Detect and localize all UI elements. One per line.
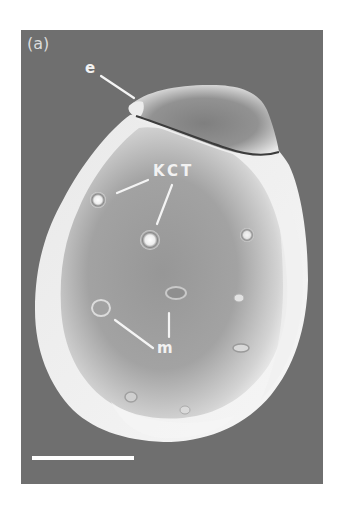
scale-bar: [32, 456, 134, 460]
pore: [233, 344, 249, 352]
pore: [240, 228, 254, 242]
pore-kct-2: [140, 230, 160, 250]
pore-m-2: [166, 287, 186, 299]
panel-label: (a): [27, 36, 49, 52]
label-m: m: [157, 341, 173, 356]
pore-m-1: [92, 300, 110, 316]
pore: [180, 406, 190, 414]
label-kct: KCT: [153, 164, 194, 179]
pore: [125, 392, 137, 402]
pore: [234, 294, 244, 302]
specimen-drawing: [21, 30, 323, 484]
pore-kct-1: [90, 192, 106, 208]
sem-micrograph-panel: (a) e KCT m: [21, 30, 323, 484]
label-e: e: [85, 61, 95, 76]
